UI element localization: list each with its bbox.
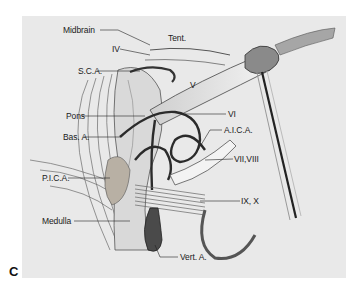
label-abducens-nerve: VI — [228, 110, 236, 119]
panel-letter: C — [9, 264, 18, 279]
label-cn-ix-x: IX, X — [241, 197, 259, 206]
retracted-tissue — [245, 46, 279, 74]
dura-edge — [202, 210, 255, 259]
retractor-instrument — [257, 71, 301, 220]
anatomical-illustration: Midbrain Tent. IV S.C.A. V Pons VI Bas. … — [0, 0, 362, 296]
label-pons: Pons — [66, 112, 85, 121]
label-trochlear-nerve: IV — [112, 45, 120, 54]
label-aica: A.I.C.A. — [224, 126, 253, 135]
label-trigeminal-nerve: V — [190, 81, 196, 90]
label-midbrain: Midbrain — [63, 26, 95, 35]
label-cn-vii-viii: VII,VIII — [234, 155, 259, 164]
label-tentorium: Tent. — [168, 34, 186, 43]
label-vertebral-artery: Vert. A. — [180, 253, 207, 262]
vertebral-artery — [144, 208, 162, 251]
label-basilar-artery: Bas. A. — [63, 133, 89, 142]
label-pica: P.I.C.A. — [42, 174, 69, 183]
label-superior-cerebellar-artery: S.C.A. — [78, 67, 102, 76]
label-medulla: Medulla — [42, 217, 71, 226]
